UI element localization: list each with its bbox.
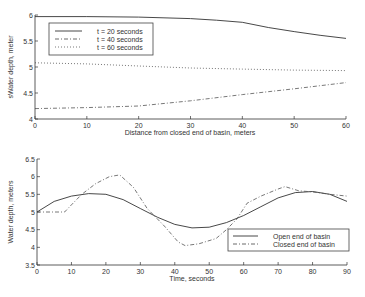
top-chart-y-ticks: 44.555.56 <box>23 12 38 123</box>
bottom-chart-x-label: Time, seconds <box>169 275 215 282</box>
legend-label: Open end of basin <box>273 233 330 241</box>
x-tick-label: 20 <box>135 122 143 129</box>
y-tick-label: 4.5 <box>23 90 33 97</box>
y-tick-label: 4 <box>31 244 35 251</box>
y-tick-label: 5 <box>29 64 33 71</box>
x-tick-label: 30 <box>187 122 195 129</box>
x-tick-label: 30 <box>136 268 144 275</box>
y-tick-label: 6.5 <box>25 156 35 163</box>
y-tick-label: 5.5 <box>25 191 35 198</box>
y-tick-label: 4.5 <box>25 226 35 233</box>
x-tick-label: 70 <box>274 268 282 275</box>
x-tick-label: 20 <box>102 268 110 275</box>
bottom-chart-x-ticks: 0102030405060708090 <box>35 262 351 275</box>
y-tick-label: 5 <box>31 209 35 216</box>
bottom-chart: 0102030405060708090 3.544.555.566.5 Time… <box>7 156 351 283</box>
legend-label: t = 20 seconds <box>97 28 143 35</box>
x-tick-label: 60 <box>240 268 248 275</box>
legend-label: t = 40 seconds <box>97 36 143 43</box>
series-line <box>35 83 346 109</box>
y-tick-label: 4 <box>29 116 33 123</box>
x-tick-label: 50 <box>205 268 213 275</box>
y-tick-label: 3.5 <box>25 262 35 269</box>
series-line <box>37 192 347 228</box>
bottom-chart-y-ticks: 3.544.555.566.5 <box>25 156 40 269</box>
x-tick-label: 10 <box>68 268 76 275</box>
series-line <box>35 63 346 71</box>
bottom-chart-y-label: Water depth, meters <box>7 180 15 244</box>
legend-label: t = 60 seconds <box>97 44 143 51</box>
top-chart-x-ticks: 0102030405060 <box>33 116 350 129</box>
x-tick-label: 90 <box>343 268 351 275</box>
x-tick-label: 40 <box>171 268 179 275</box>
x-tick-label: 0 <box>33 122 37 129</box>
y-tick-label: 6 <box>31 173 35 180</box>
x-tick-label: 10 <box>83 122 91 129</box>
x-tick-label: 60 <box>342 122 350 129</box>
x-tick-label: 40 <box>238 122 246 129</box>
top-chart-x-label: Distance from closed end of basin, meter… <box>125 129 256 136</box>
y-tick-label: 6 <box>29 12 33 19</box>
x-tick-label: 50 <box>290 122 298 129</box>
x-tick-label: 0 <box>35 268 39 275</box>
figure: 0102030405060 44.555.56 Distance from cl… <box>0 0 365 297</box>
top-chart-legend: t = 20 seconds t = 40 seconds t = 60 sec… <box>49 23 153 55</box>
bottom-chart-legend: Open end of basin Closed end of basin <box>228 229 349 251</box>
legend-label: Closed end of basin <box>273 241 335 248</box>
top-chart-y-label: sWater depth, meter <box>7 35 15 99</box>
y-tick-label: 5.5 <box>23 38 33 45</box>
top-chart: 0102030405060 44.555.56 Distance from cl… <box>7 12 350 137</box>
x-tick-label: 80 <box>309 268 317 275</box>
